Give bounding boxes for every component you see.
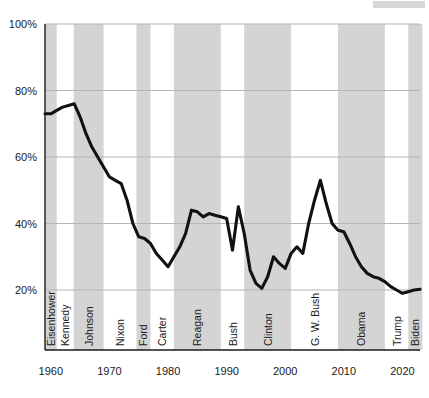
- president-band-ford: [136, 24, 150, 350]
- y-tick-20: 20%: [15, 284, 37, 296]
- president-label-reagan: Reagan: [191, 309, 203, 346]
- president-label-kennedy: Kennedy: [59, 304, 71, 346]
- president-label-clinton: Clinton: [262, 313, 274, 346]
- x-tick-1990: 1990: [214, 365, 238, 377]
- president-label-ford: Ford: [137, 324, 149, 346]
- chart-canvas: EisenhowerKennedyJohnsonNixonFordCarterR…: [0, 0, 429, 398]
- president-band-johnson: [74, 24, 104, 350]
- x-tick-1970: 1970: [97, 365, 121, 377]
- president-bands-layer: [45, 24, 422, 350]
- president-band-reagan: [174, 24, 221, 350]
- x-tick-1980: 1980: [156, 365, 180, 377]
- y-tick-40: 40%: [15, 218, 37, 230]
- president-band-obama: [338, 24, 385, 350]
- x-tick-1960: 1960: [39, 365, 63, 377]
- y-tick-100: 100%: [9, 18, 37, 30]
- president-label-biden: Biden: [409, 319, 421, 346]
- president-label-eisenhower: Eisenhower: [45, 291, 57, 346]
- x-tick-2000: 2000: [273, 365, 297, 377]
- president-label-nixon: Nixon: [114, 319, 126, 346]
- x-tick-2010: 2010: [332, 365, 356, 377]
- y-tick-60: 60%: [15, 151, 37, 163]
- y-tick-80: 80%: [15, 85, 37, 97]
- president-label-carter: Carter: [156, 316, 168, 346]
- president-band-biden: [408, 24, 422, 350]
- president-label-g-w-bush: G. W. Bush: [309, 293, 321, 346]
- y-tick-labels: 20%40%60%80%100%: [9, 18, 37, 296]
- president-label-trump: Trump: [391, 316, 403, 346]
- trust-in-government-chart: EisenhowerKennedyJohnsonNixonFordCarterR…: [0, 0, 429, 398]
- x-tick-labels: 1960197019801990200020102020: [39, 365, 415, 377]
- president-label-bush: Bush: [227, 322, 239, 346]
- top-right-artifact: [373, 1, 425, 8]
- president-label-obama: Obama: [355, 311, 367, 346]
- president-band-clinton: [244, 24, 291, 350]
- president-label-johnson: Johnson: [83, 306, 95, 346]
- x-tick-2020: 2020: [390, 365, 414, 377]
